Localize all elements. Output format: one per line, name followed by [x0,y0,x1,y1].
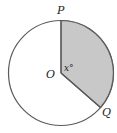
label-o: O [46,68,55,81]
label-angle-x: x° [64,63,74,73]
label-p: P [56,4,65,17]
label-q: Q [102,106,111,119]
circle-sector-diagram: P O Q x° [0,0,117,133]
